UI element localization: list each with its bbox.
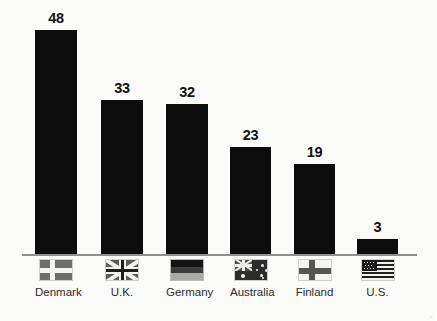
bar-rect-denmark bbox=[35, 30, 77, 255]
category-label-denmark: Denmark bbox=[35, 286, 77, 299]
flag-germany-icon bbox=[170, 259, 204, 281]
bar-value-germany: 32 bbox=[166, 85, 208, 100]
category-label-uk: U.K. bbox=[101, 286, 143, 299]
flag-australia-icon bbox=[234, 259, 268, 281]
flag-denmark-icon bbox=[39, 259, 73, 281]
category-label-germany: Germany bbox=[166, 286, 208, 299]
scan-speck bbox=[430, 316, 433, 318]
x-axis-baseline bbox=[22, 254, 417, 256]
bar-value-us: 3 bbox=[357, 220, 398, 235]
bar-rect-australia bbox=[230, 147, 271, 255]
bar-value-denmark: 48 bbox=[35, 11, 77, 26]
category-cell-uk: U.K. bbox=[101, 257, 143, 299]
bar-chart-figure: 48 33 32 23 19 3 bbox=[0, 0, 437, 321]
bar-group-denmark: 48 bbox=[35, 0, 77, 255]
category-cell-denmark: Denmark bbox=[35, 257, 77, 299]
category-cell-germany: Germany bbox=[166, 257, 208, 299]
category-cell-finland: Finland bbox=[294, 257, 335, 299]
bar-rect-germany bbox=[166, 104, 208, 255]
category-label-us: U.S. bbox=[357, 286, 398, 299]
bar-group-germany: 32 bbox=[166, 0, 208, 255]
bar-group-australia: 23 bbox=[230, 0, 271, 255]
category-cell-us: U.S. bbox=[357, 257, 398, 299]
flag-united-kingdom-icon bbox=[105, 259, 139, 281]
bar-group-finland: 19 bbox=[294, 0, 335, 255]
bar-value-australia: 23 bbox=[230, 128, 271, 143]
category-label-finland: Finland bbox=[294, 286, 335, 299]
flag-finland-icon bbox=[298, 259, 332, 281]
bar-rect-finland bbox=[294, 164, 335, 255]
category-label-australia: Australia bbox=[230, 286, 271, 299]
bar-group-us: 3 bbox=[357, 0, 398, 255]
flag-united-states-icon bbox=[361, 259, 395, 281]
bar-value-uk: 33 bbox=[101, 81, 143, 96]
category-cell-australia: Australia bbox=[230, 257, 271, 299]
bar-rect-us bbox=[357, 239, 398, 255]
plot-area: 48 33 32 23 19 3 bbox=[0, 0, 437, 255]
bar-rect-uk bbox=[101, 100, 143, 255]
bar-group-uk: 33 bbox=[101, 0, 143, 255]
bar-value-finland: 19 bbox=[294, 145, 335, 160]
category-axis: Denmark U.K. Germany bbox=[0, 257, 437, 321]
